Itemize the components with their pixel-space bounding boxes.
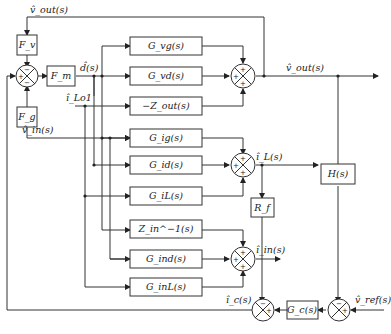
- gc-label: G_c(s): [287, 304, 317, 316]
- sign: +: [240, 249, 246, 257]
- zin-label: Z_in^−1(s): [138, 223, 194, 235]
- sign: +: [240, 169, 246, 177]
- gvg-label: G_vg(s): [148, 40, 184, 52]
- fm-label: F_m: [50, 70, 71, 82]
- fg-label: F_g: [17, 111, 35, 123]
- sign: +: [233, 73, 239, 81]
- vin-label: v̂_in(s): [22, 124, 54, 136]
- gil-label: G_iL(s): [149, 190, 183, 202]
- sign: +: [240, 263, 246, 271]
- vout-feedback-label: v̂_out(s): [30, 4, 68, 16]
- sign: −: [24, 66, 30, 74]
- iin-label: î_in(s): [256, 244, 286, 256]
- block-diagram: − + − + + + + + + + + + − + − + F_v F_m …: [0, 0, 391, 334]
- sign: +: [240, 80, 246, 88]
- sign: +: [342, 307, 348, 315]
- h-label: H(s): [327, 168, 349, 179]
- rf-label: R_f: [253, 202, 271, 214]
- vref-label: v̂_ref(s): [355, 294, 391, 306]
- diagram-canvas: − + − + + + + + + + + + − + − + F_v F_m …: [0, 0, 391, 334]
- zout-label: −Z_out(s): [142, 100, 190, 112]
- sign: +: [240, 155, 246, 163]
- ic-label: î_c(s): [226, 294, 252, 306]
- vout-label: v̂_out(s): [286, 62, 324, 74]
- ilo1-label: î_Lo1: [66, 92, 92, 104]
- gid-label: G_id(s): [149, 159, 183, 171]
- sign: +: [233, 256, 239, 264]
- fv-label: F_v: [18, 39, 36, 51]
- duty-label: d̂(s): [80, 61, 99, 73]
- gind-label: G_ind(s): [146, 253, 186, 265]
- gvd-label: G_vd(s): [148, 70, 184, 82]
- ginl-label: G_inL(s): [146, 281, 186, 293]
- sign: +: [233, 162, 239, 170]
- sign: +: [266, 307, 272, 315]
- sign: −: [24, 79, 30, 87]
- gig-label: G_ig(s): [149, 132, 183, 144]
- il-label: î_L(s): [256, 151, 283, 163]
- sign: +: [240, 66, 246, 74]
